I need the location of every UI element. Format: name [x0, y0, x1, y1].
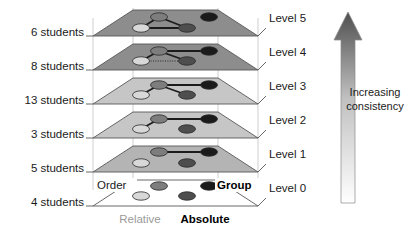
students-label-level-0: 4 students: [31, 196, 84, 208]
node-relative-order: [133, 91, 150, 99]
level-label-2: Level 2: [269, 114, 306, 126]
level-label-4: Level 4: [269, 46, 307, 58]
consistency-level-diagram: 6 students 8 students 13 students 3 stud…: [0, 0, 405, 232]
node-absolute-order: [151, 47, 168, 55]
node-absolute-group: [201, 47, 218, 55]
node-relative-order: [133, 57, 150, 65]
node-absolute-order: [151, 81, 168, 89]
node-relative-group: [179, 125, 196, 133]
node-absolute-group: [201, 182, 218, 190]
axis-label-relative: Relative: [119, 213, 161, 225]
node-absolute-order: [151, 182, 168, 190]
arrow-label-line1: Increasing: [350, 86, 401, 98]
node-relative-group: [179, 192, 196, 200]
node-absolute-group: [201, 148, 218, 156]
level-label-5: Level 5: [269, 12, 306, 24]
students-label-level-3: 13 students: [25, 94, 85, 106]
axis-label-absolute: Absolute: [180, 213, 229, 225]
node-relative-group: [179, 91, 196, 99]
arrow-label-line2: consistency: [346, 100, 404, 112]
node-relative-group: [179, 24, 196, 32]
node-relative-order: [133, 159, 150, 167]
students-label-level-2: 3 students: [31, 128, 84, 140]
node-absolute-group: [201, 81, 218, 89]
level-label-0: Level 0: [269, 182, 306, 194]
students-label-level-4: 8 students: [31, 60, 84, 72]
level-label-3: Level 3: [269, 80, 306, 92]
node-absolute-order: [151, 115, 168, 123]
node-relative-order: [133, 125, 150, 133]
node-relative-group: [179, 57, 196, 65]
node-absolute-group: [201, 13, 218, 21]
level-label-1: Level 1: [269, 148, 306, 160]
node-relative-order: [133, 192, 150, 200]
students-label-level-5: 6 students: [31, 26, 84, 38]
axis-label-group: Group: [217, 179, 252, 191]
node-absolute-order: [151, 13, 168, 21]
node-relative-order: [133, 24, 150, 32]
students-label-level-1: 5 students: [31, 162, 84, 174]
node-relative-group: [179, 159, 196, 167]
node-absolute-group: [201, 115, 218, 123]
node-absolute-order: [151, 148, 168, 156]
axis-label-order: Order: [97, 179, 127, 191]
